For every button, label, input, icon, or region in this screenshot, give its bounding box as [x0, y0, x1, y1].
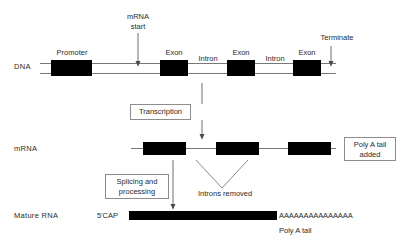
diagram-canvas: mRNA start Terminate DNA Promoter Exon I… [0, 0, 406, 248]
mrna-exon-1-block [143, 142, 186, 155]
poly-a-added-line1: Poly A tail [349, 140, 391, 150]
dna-promoter-label: Promoter [47, 48, 97, 58]
dna-exon-3-label: Exon [291, 48, 323, 58]
introns-removed-label: Introns removed [198, 189, 298, 199]
dna-row-label: DNA [14, 62, 31, 71]
dna-promoter-block [51, 60, 92, 76]
dna-intron-1-label: Intron [190, 54, 226, 64]
dna-intron-2-label: Intron [257, 54, 293, 64]
dna-exon-1-block [160, 60, 188, 76]
mature-rna-row-label: Mature RNA [14, 211, 58, 220]
five-prime-cap-label: 5'CAP [97, 211, 118, 220]
splicing-line1: Splicing and [110, 177, 164, 187]
mrna-start-label-line1: mRNA [108, 12, 168, 22]
dna-exon-3-block [293, 60, 321, 76]
poly-a-added-line2: added [349, 150, 391, 160]
intron-removal-v-1 [196, 160, 248, 188]
splicing-process-box: Splicing and processing [105, 174, 169, 199]
mrna-start-label-line2: start [108, 22, 168, 32]
poly-a-sequence-label: AAAAAAAAAAAAAAA [279, 211, 353, 220]
mrna-exon-3-block [288, 142, 331, 155]
splicing-line2: processing [110, 187, 164, 197]
transcription-process-box: Transcription [130, 104, 191, 120]
poly-a-tail-label: Poly A tail [279, 226, 359, 236]
mature-rna-bar [129, 211, 277, 220]
dna-exon-2-label: Exon [225, 48, 257, 58]
poly-a-added-process-box: Poly A tail added [344, 137, 396, 161]
dna-exon-1-label: Exon [158, 48, 190, 58]
dna-exon-2-block [227, 60, 255, 76]
mrna-row-label: mRNA [14, 144, 37, 153]
mrna-exon-2-block [216, 142, 259, 155]
terminate-label: Terminate [300, 33, 374, 43]
